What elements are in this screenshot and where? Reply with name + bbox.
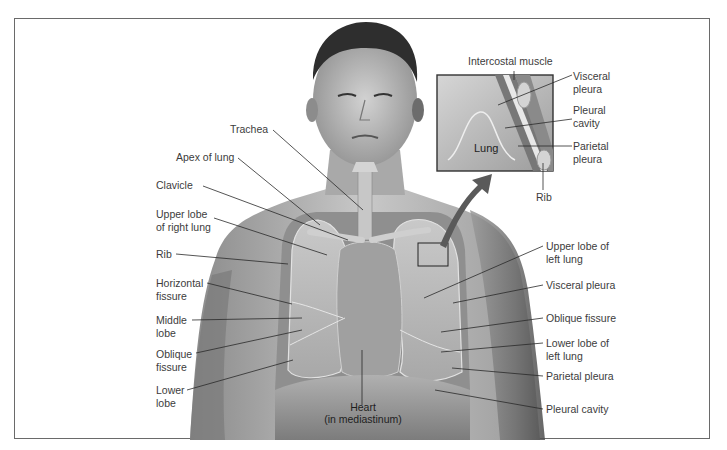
label-oblique-fissure-2: fissure: [156, 361, 187, 374]
label-visceral-pleura: Visceral pleura: [546, 279, 615, 292]
left-lung: [393, 220, 462, 382]
label-inset-lung: Lung: [474, 142, 498, 155]
label-upper-lobe-left-1: Upper lobe of: [546, 240, 609, 253]
label-apex-of-lung: Apex of lung: [176, 151, 234, 164]
label-rib: Rib: [156, 248, 172, 261]
label-upper-lobe-right-1: Upper lobe: [156, 208, 207, 221]
heart: [337, 242, 402, 378]
label-parietal-pleura: Parietal pleura: [546, 370, 614, 383]
label-inset-intercostal-muscle: Intercostal muscle: [468, 55, 553, 68]
label-pleural-cavity: Pleural cavity: [546, 403, 608, 416]
label-horizontal-fissure-1: Horizontal: [156, 277, 203, 290]
head: [306, 22, 424, 166]
anatomy-illustration: [0, 0, 727, 450]
label-lower-lobe-2: lobe: [156, 397, 176, 410]
label-lower-lobe-left-2: left lung: [546, 350, 583, 363]
label-oblique-fissure-left: Oblique fissure: [546, 312, 616, 325]
label-inset-pleural-cavity-2: cavity: [573, 117, 600, 130]
label-clavicle: Clavicle: [156, 179, 193, 192]
label-upper-lobe-right-2: of right lung: [156, 221, 211, 234]
label-oblique-fissure-1: Oblique: [156, 348, 192, 361]
label-heart-2: (in mediastinum): [313, 413, 413, 426]
label-inset-parietal-pleura-1: Parietal: [573, 140, 609, 153]
label-inset-rib: Rib: [536, 191, 552, 204]
label-trachea: Trachea: [230, 123, 268, 136]
label-middle-lobe-2: lobe: [156, 327, 176, 340]
label-inset-visceral-pleura-2: pleura: [573, 83, 602, 96]
trachea: [358, 170, 372, 240]
label-middle-lobe-1: Middle: [156, 314, 187, 327]
label-lower-lobe-left-1: Lower lobe of: [546, 337, 609, 350]
label-lower-lobe-1: Lower: [156, 384, 185, 397]
label-inset-pleural-cavity-1: Pleural: [573, 104, 606, 117]
label-upper-lobe-left-2: left lung: [546, 253, 583, 266]
label-inset-visceral-pleura-1: Visceral: [573, 70, 610, 83]
label-horizontal-fissure-2: fissure: [156, 290, 187, 303]
label-inset-parietal-pleura-2: pleura: [573, 153, 602, 166]
